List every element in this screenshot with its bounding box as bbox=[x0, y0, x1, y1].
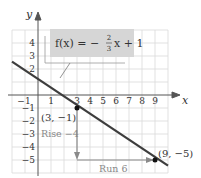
label-leader-line bbox=[60, 63, 70, 78]
point-label-9-neg5: (9, −5) bbox=[158, 148, 193, 159]
x-axis-label: x bbox=[182, 94, 189, 107]
svg-text:8: 8 bbox=[139, 96, 145, 106]
fraction-denominator: 3 bbox=[107, 45, 111, 53]
svg-text:7: 7 bbox=[126, 96, 132, 106]
svg-text:−2: −2 bbox=[22, 116, 35, 126]
rise-arrowhead-icon bbox=[74, 152, 80, 160]
run-label: Run 6 bbox=[99, 163, 127, 174]
function-label-rhs: x + 1 bbox=[114, 37, 143, 50]
fraction-numerator: 2 bbox=[107, 34, 111, 42]
x-axis-arrow-icon bbox=[172, 92, 180, 98]
y-axis-label: y bbox=[25, 8, 33, 21]
point-3-neg1 bbox=[75, 106, 80, 111]
svg-text:1: 1 bbox=[48, 96, 54, 106]
rise-label: Rise −4 bbox=[41, 128, 79, 139]
point-label-3-neg1: (3, −1) bbox=[41, 112, 76, 123]
point-9-neg5 bbox=[153, 158, 158, 163]
svg-text:3: 3 bbox=[29, 51, 35, 61]
svg-text:4: 4 bbox=[87, 96, 93, 106]
function-label-lhs: f(x) = − bbox=[55, 37, 99, 50]
svg-text:4: 4 bbox=[29, 38, 35, 48]
svg-text:9: 9 bbox=[152, 96, 158, 106]
svg-text:6: 6 bbox=[113, 96, 119, 106]
graph: x y −1 1 3 4 5 6 7 8 9 2 3 4 −1 −2 −3 −4… bbox=[0, 0, 201, 178]
svg-text:−1: −1 bbox=[22, 103, 35, 113]
svg-text:5: 5 bbox=[100, 96, 106, 106]
svg-text:−5: −5 bbox=[22, 155, 36, 165]
y-axis-arrow-icon bbox=[35, 12, 41, 20]
svg-text:−4: −4 bbox=[22, 142, 36, 152]
svg-text:−3: −3 bbox=[22, 129, 36, 139]
